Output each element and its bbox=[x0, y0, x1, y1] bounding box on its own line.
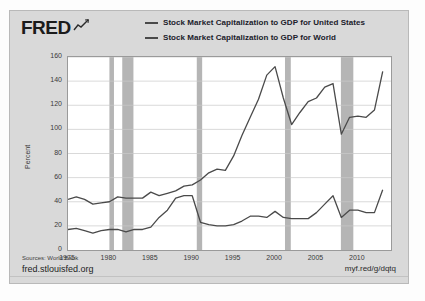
plot-canvas bbox=[67, 56, 392, 251]
chart-legend: Stock Market Capitalization to GDP for U… bbox=[145, 16, 365, 46]
legend-item-us: Stock Market Capitalization to GDP for U… bbox=[145, 16, 365, 29]
y-tick-label: 100 bbox=[28, 124, 62, 131]
y-tick-label: 140 bbox=[28, 76, 62, 83]
short-url-link[interactable]: myf.red/g/dqtq bbox=[345, 264, 396, 273]
chart-header: FRED Stock Market Capitalization to GDP … bbox=[10, 11, 408, 45]
fred-logo: FRED bbox=[21, 17, 90, 37]
series-line-us bbox=[68, 67, 383, 205]
y-tick-label: 40 bbox=[28, 197, 62, 204]
legend-item-world: Stock Market Capitalization to GDP for W… bbox=[145, 31, 365, 44]
y-tick-label: 60 bbox=[28, 173, 62, 180]
legend-swatch-us bbox=[145, 22, 158, 24]
y-tick-label: 160 bbox=[28, 52, 62, 59]
y-tick-label: 120 bbox=[28, 100, 62, 107]
y-tick-label: 0 bbox=[28, 245, 62, 252]
legend-label-world: Stock Market Capitalization to GDP for W… bbox=[163, 33, 336, 42]
fred-wordmark: FRED bbox=[21, 18, 71, 37]
y-tick-label: 80 bbox=[28, 149, 62, 156]
fred-url-link[interactable]: fred.stlouisfed.org bbox=[22, 264, 94, 274]
fred-chart-card: FRED Stock Market Capitalization to GDP … bbox=[9, 10, 409, 284]
chart-svg bbox=[68, 57, 391, 250]
series-line-world bbox=[68, 190, 383, 233]
squiggle-chart-icon bbox=[73, 17, 90, 35]
legend-label-us: Stock Market Capitalization to GDP for U… bbox=[163, 18, 365, 27]
legend-swatch-world bbox=[145, 37, 158, 39]
footer-divider bbox=[10, 276, 408, 277]
sources-label: Sources: World Bank bbox=[22, 255, 78, 261]
fred-chart-screenshot: FRED Stock Market Capitalization to GDP … bbox=[0, 0, 425, 301]
plot-area-wrapper: Percent 020406080100120140160 1975198019… bbox=[10, 45, 410, 285]
y-tick-label: 20 bbox=[28, 221, 62, 228]
chart-footer: Sources: World Bank fred.stlouisfed.org … bbox=[10, 253, 408, 283]
